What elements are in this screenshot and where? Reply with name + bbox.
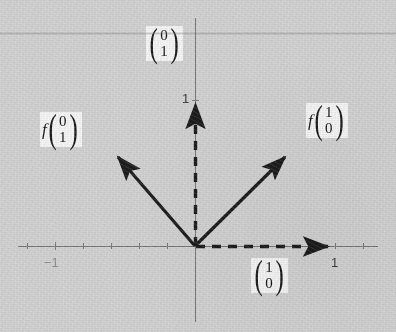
paren-right: ) [275, 259, 283, 292]
paren-right: ) [335, 104, 343, 137]
paren-left: ( [255, 259, 263, 292]
x-axis-tick-label-1: 1 [331, 256, 338, 269]
column-vector: ( 0 1 ) [46, 113, 80, 146]
vector-image-e2 [118, 157, 195, 246]
y-axis-tick-label-1: 1 [182, 92, 189, 105]
vector-bottom-value: 0 [325, 120, 333, 136]
column-vector: ( 0 1 ) [147, 27, 181, 60]
column-vector: ( 1 0 ) [312, 104, 346, 137]
label-basis-e2: ( 0 1 ) [146, 26, 183, 61]
vector-image-e1 [195, 157, 285, 246]
vector-bottom-value: 1 [59, 129, 67, 145]
label-image-e2: f ( 0 1 ) [40, 112, 82, 147]
column-vector: ( 1 0 ) [252, 259, 286, 292]
label-basis-e1: ( 1 0 ) [251, 258, 288, 293]
paren-left: ( [150, 27, 158, 60]
vector-top-value: 0 [59, 113, 67, 129]
x-axis-tick-label-neg1: −1 [44, 256, 59, 269]
paren-right: ) [170, 27, 178, 60]
paren-left: ( [314, 104, 322, 137]
vector-bottom-value: 1 [160, 43, 168, 59]
vector-top-value: 1 [265, 259, 273, 275]
label-image-e1: f ( 1 0 ) [306, 103, 348, 138]
vector-diagram [0, 0, 396, 332]
figure-canvas: ( 0 1 ) ( 1 0 ) f [0, 0, 396, 332]
vector-bottom-value: 0 [265, 275, 273, 291]
paren-left: ( [48, 113, 56, 146]
vector-top-value: 1 [325, 104, 333, 120]
paren-right: ) [69, 113, 77, 146]
vector-top-value: 0 [160, 27, 168, 43]
